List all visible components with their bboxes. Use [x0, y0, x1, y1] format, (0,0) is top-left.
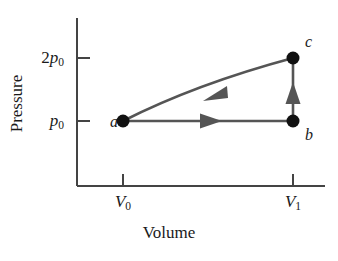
y-tick-p0-subscript: 0 — [58, 119, 64, 132]
x-tick-label-v1: V1 — [273, 193, 313, 210]
point-label-c: c — [305, 34, 312, 50]
point-marker-b — [287, 115, 300, 128]
y-tick-2p0-coefficient: 2 — [41, 48, 50, 67]
y-tick-2p0-base: p — [50, 48, 59, 67]
arrowhead-a-to-b — [200, 114, 222, 129]
y-tick-p0-base: p — [50, 111, 59, 130]
point-label-b: b — [305, 127, 313, 143]
x-tick-v1-base: V — [285, 192, 295, 211]
x-tick-v1-subscript: 1 — [295, 200, 301, 213]
arrowhead-c-to-a — [203, 86, 228, 101]
y-axis-title: Pressure — [8, 44, 25, 164]
point-label-a: a — [110, 114, 118, 130]
segment-c-to-a — [123, 58, 293, 121]
x-axis-title: Volume — [0, 224, 338, 241]
point-marker-c — [287, 52, 300, 65]
point-marker-a — [117, 115, 130, 128]
x-tick-label-v0: V0 — [103, 193, 143, 210]
x-tick-v0-base: V — [115, 192, 125, 211]
pv-diagram-figure: 2p0 p0 V0 V1 Volume Pressure a b c — [0, 0, 338, 261]
x-tick-v0-subscript: 0 — [125, 200, 131, 213]
y-tick-2p0-subscript: 0 — [58, 56, 64, 69]
plot-canvas — [0, 0, 338, 261]
arrowhead-b-to-c — [286, 82, 301, 104]
